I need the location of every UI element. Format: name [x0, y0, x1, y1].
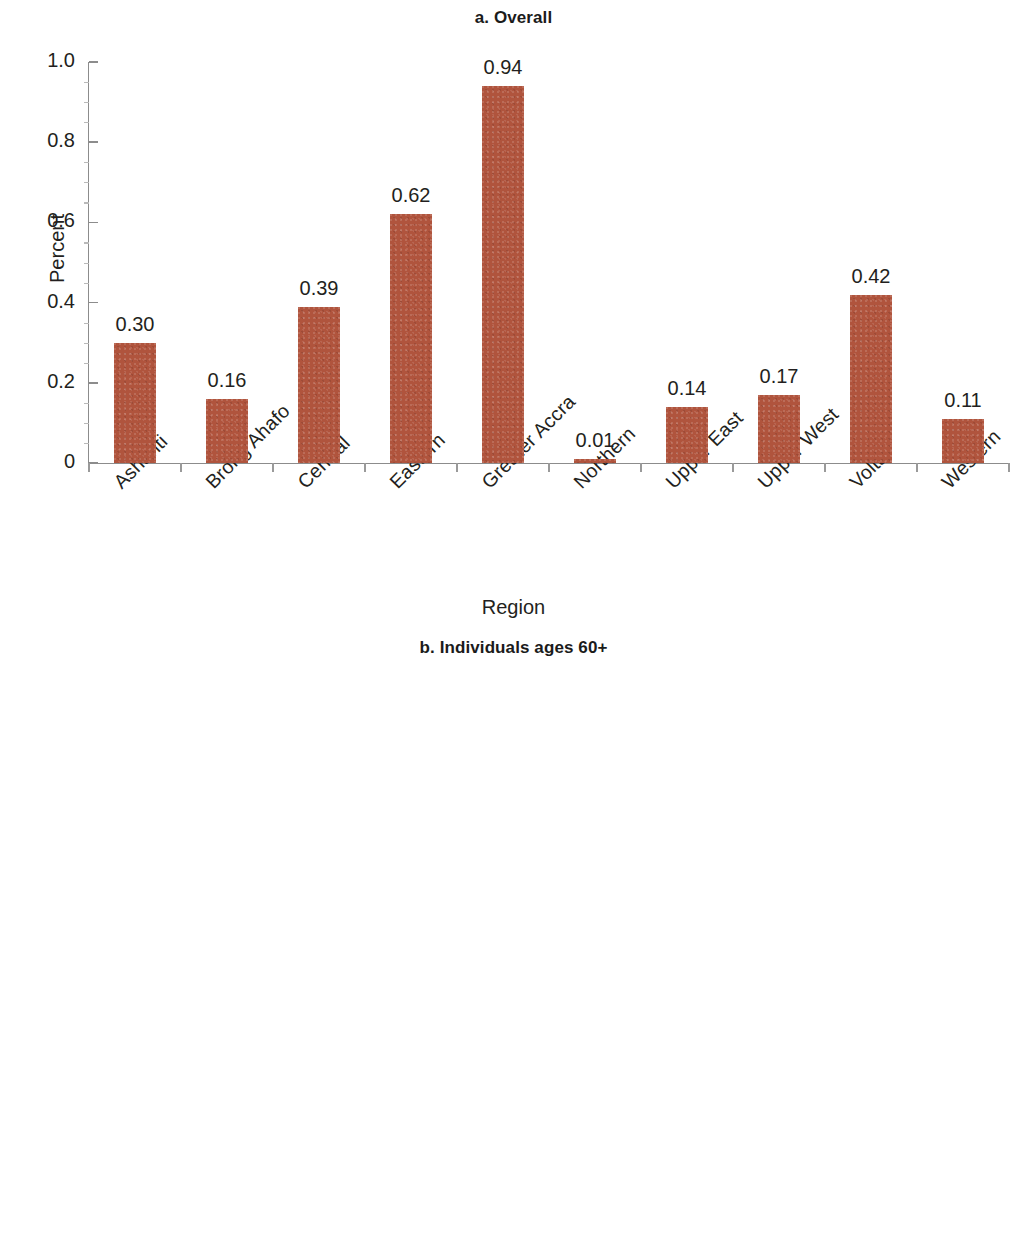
bar: 0.16	[206, 399, 248, 463]
y-minor-tick	[84, 363, 89, 364]
x-tick-mark	[1008, 463, 1009, 472]
x-tick-mark	[916, 463, 917, 472]
bar: 0.11	[942, 419, 984, 463]
bar: 0.14	[666, 407, 708, 463]
y-tick-mark	[89, 61, 98, 63]
bar: 0.01	[574, 459, 616, 463]
plot-area-overall: Percent 00.20.40.60.81.0 AshantiBrong Ah…	[88, 62, 1009, 464]
bar-value-label: 0.17	[760, 365, 799, 388]
bar: 0.39	[298, 307, 340, 463]
y-minor-tick	[84, 343, 89, 344]
y-tick-label: 0	[64, 450, 75, 473]
y-minor-tick	[84, 403, 89, 404]
y-minor-tick	[84, 443, 89, 444]
y-tick-label: 1.0	[47, 49, 75, 72]
chart-panel-ages-60-plus: b. Individuals ages 60+ Percent 0481216 …	[0, 628, 1027, 1255]
bar-value-label: 0.62	[392, 184, 431, 207]
x-tick-mark	[640, 463, 641, 472]
x-tick-mark	[456, 463, 457, 472]
bar-value-label: 0.39	[300, 277, 339, 300]
y-minor-tick	[84, 423, 89, 424]
x-tick-mark	[272, 463, 273, 472]
x-tick-mark	[732, 463, 733, 472]
y-minor-tick	[84, 283, 89, 284]
y-tick-mark	[89, 141, 98, 143]
y-tick-mark	[89, 462, 98, 464]
y-tick-label: 0.4	[47, 290, 75, 313]
bar-value-label: 0.94	[484, 56, 523, 79]
bar: 0.62	[390, 214, 432, 463]
chart-panel-overall: a. Overall Percent 00.20.40.60.81.0 Asha…	[0, 0, 1027, 628]
bar: 0.42	[850, 295, 892, 463]
x-tick-mark	[548, 463, 549, 472]
bar-value-label: 0.01	[576, 429, 615, 452]
y-tick-mark	[89, 382, 98, 384]
bar-value-label: 0.42	[852, 265, 891, 288]
x-axis-label-a: Region	[0, 596, 1027, 619]
bar-value-label: 0.14	[668, 377, 707, 400]
y-minor-tick	[84, 242, 89, 243]
y-minor-tick	[84, 162, 89, 163]
x-tick-mark	[180, 463, 181, 472]
bar-value-label: 0.16	[208, 369, 247, 392]
bar-value-label: 0.11	[944, 389, 981, 412]
y-tick-label: 0.2	[47, 370, 75, 393]
panel-b-title: b. Individuals ages 60+	[0, 638, 1027, 658]
y-minor-tick	[84, 122, 89, 123]
y-tick-label: 0.8	[47, 129, 75, 152]
x-tick-mark	[824, 463, 825, 472]
bar: 0.17	[758, 395, 800, 463]
y-minor-tick	[84, 202, 89, 203]
y-tick-mark	[89, 222, 98, 224]
bar: 0.94	[482, 86, 524, 463]
y-minor-tick	[84, 263, 89, 264]
x-tick-mark	[364, 463, 365, 472]
x-tick-mark	[88, 463, 89, 472]
y-minor-tick	[84, 82, 89, 83]
y-tick-label: 0.6	[47, 209, 75, 232]
y-minor-tick	[84, 323, 89, 324]
bar: 0.30	[114, 343, 156, 463]
y-minor-tick	[84, 102, 89, 103]
y-tick-mark	[89, 302, 98, 304]
bar-value-label: 0.30	[116, 313, 155, 336]
panel-a-title: a. Overall	[0, 8, 1027, 28]
y-minor-tick	[84, 182, 89, 183]
